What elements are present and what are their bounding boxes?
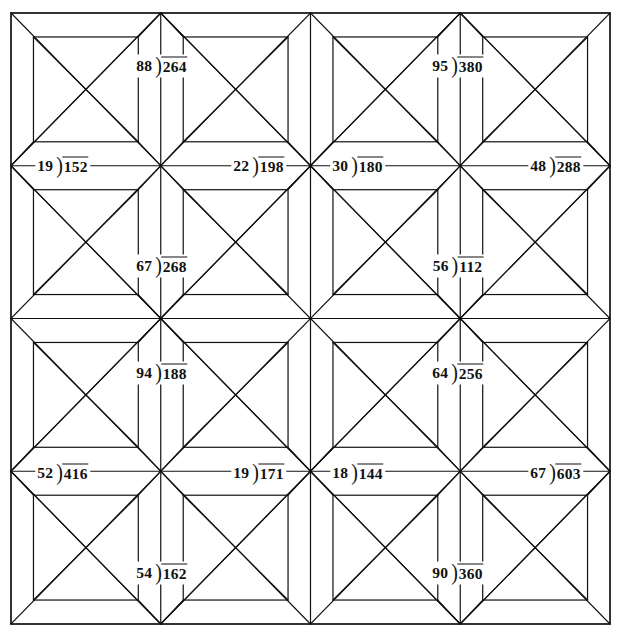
- dividend: 180: [357, 157, 384, 175]
- quilt-line: [438, 471, 460, 495]
- quilt-line: [438, 13, 460, 37]
- dividend: 380: [457, 57, 484, 75]
- quilt-line: [460, 447, 482, 471]
- quilt-line: [161, 447, 183, 471]
- quilt-line: [138, 166, 160, 190]
- division-problem[interactable]: 95)380: [430, 55, 485, 78]
- division-bracket-icon: ): [351, 460, 358, 484]
- division-problem[interactable]: 67)603: [528, 462, 583, 485]
- quilt-line: [288, 166, 310, 190]
- division-bracket-icon: ): [155, 360, 162, 384]
- quilt-line: [438, 600, 460, 624]
- quilt-line: [460, 319, 482, 343]
- divisor: 88: [136, 58, 152, 74]
- division-bracket-icon: ): [155, 253, 162, 277]
- dividend: 264: [161, 57, 188, 75]
- quilt-pattern: [0, 0, 620, 637]
- division-problem[interactable]: 94)188: [134, 362, 189, 385]
- division-bracket-icon: ): [155, 53, 162, 77]
- division-bracket-icon: ): [252, 460, 259, 484]
- divisor: 52: [37, 465, 53, 481]
- quilt-line: [460, 13, 482, 37]
- quilt-line: [588, 471, 610, 495]
- dividend: 360: [457, 564, 484, 582]
- division-bracket-icon: ): [451, 53, 458, 77]
- quilt-line: [161, 142, 183, 166]
- division-bracket-icon: ): [56, 153, 63, 177]
- division-bracket-icon: ): [155, 560, 162, 584]
- division-problem[interactable]: 19)152: [35, 155, 90, 178]
- divisor: 64: [432, 365, 448, 381]
- division-bracket-icon: ): [56, 460, 63, 484]
- quilt-line: [138, 13, 160, 37]
- dividend: 416: [62, 464, 89, 482]
- divisor: 67: [136, 258, 152, 274]
- division-bracket-icon: ): [549, 153, 556, 177]
- division-problem[interactable]: 19)171: [231, 462, 286, 485]
- division-bracket-icon: ): [252, 153, 259, 177]
- quilt-line: [438, 142, 460, 166]
- dividend: 171: [258, 464, 285, 482]
- divisor: 54: [136, 565, 152, 581]
- quilt-line: [588, 447, 610, 471]
- division-problem[interactable]: 30)180: [330, 155, 385, 178]
- divisor: 18: [332, 465, 348, 481]
- dividend: 256: [457, 364, 484, 382]
- quilt-line: [438, 447, 460, 471]
- division-problem[interactable]: 64)256: [430, 362, 485, 385]
- dividend: 268: [161, 257, 188, 275]
- quilt-line: [588, 166, 610, 190]
- divisor: 19: [233, 465, 249, 481]
- quilt-line: [138, 471, 160, 495]
- division-bracket-icon: ): [452, 253, 459, 277]
- quilt-line: [288, 447, 310, 471]
- quilt-line: [11, 166, 33, 190]
- quilt-line: [138, 142, 160, 166]
- divisor: 19: [37, 158, 53, 174]
- quilt-line: [460, 142, 482, 166]
- quilt-line: [288, 471, 310, 495]
- division-problem[interactable]: 18)144: [330, 462, 385, 485]
- divisor: 56: [433, 258, 449, 274]
- worksheet-page: 88)26419)15222)19867)26895)38030)18048)2…: [0, 0, 620, 637]
- division-problem[interactable]: 90)360: [430, 562, 485, 585]
- division-problem[interactable]: 22)198: [231, 155, 286, 178]
- division-bracket-icon: ): [451, 560, 458, 584]
- dividend: 198: [258, 157, 285, 175]
- division-problem[interactable]: 54)162: [134, 562, 189, 585]
- quilt-line: [588, 142, 610, 166]
- division-problem[interactable]: 88)264: [134, 55, 189, 78]
- divisor: 67: [530, 465, 546, 481]
- dividend: 162: [161, 564, 188, 582]
- quilt-line: [138, 447, 160, 471]
- dividend: 188: [161, 364, 188, 382]
- quilt-line: [288, 142, 310, 166]
- quilt-line: [460, 166, 482, 190]
- divisor: 90: [432, 565, 448, 581]
- division-bracket-icon: ): [451, 360, 458, 384]
- divisor: 48: [530, 158, 546, 174]
- quilt-line: [161, 471, 183, 495]
- quilt-line: [161, 295, 183, 319]
- dividend: 112: [457, 257, 483, 275]
- divisor: 95: [432, 58, 448, 74]
- quilt-line: [138, 319, 160, 343]
- quilt-line: [460, 295, 482, 319]
- quilt-line: [161, 600, 183, 624]
- division-problem[interactable]: 52)416: [35, 462, 90, 485]
- quilt-line: [138, 295, 160, 319]
- quilt-line: [161, 319, 183, 343]
- quilt-line: [438, 166, 460, 190]
- quilt-line: [161, 13, 183, 37]
- quilt-line: [11, 447, 33, 471]
- division-problem[interactable]: 48)288: [528, 155, 583, 178]
- division-problem[interactable]: 67)268: [134, 255, 189, 278]
- division-problem[interactable]: 56)112: [431, 255, 486, 278]
- dividend: 603: [555, 464, 582, 482]
- division-bracket-icon: ): [351, 153, 358, 177]
- dividend: 144: [357, 464, 384, 482]
- dividend: 152: [62, 157, 89, 175]
- dividend: 288: [555, 157, 582, 175]
- quilt-line: [11, 142, 33, 166]
- divisor: 30: [332, 158, 348, 174]
